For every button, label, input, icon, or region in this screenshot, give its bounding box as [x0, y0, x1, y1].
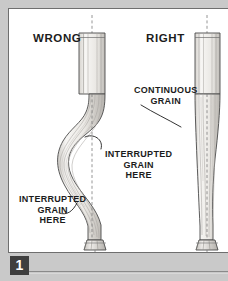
interrupted-center-leader	[85, 136, 102, 149]
continuous-grain-leader	[141, 105, 181, 127]
callout-line: CONTINUOUS	[134, 85, 198, 96]
figure-container: WRONG RIGHT CONTINUOUS GRAIN INTERRUPTED…	[0, 0, 228, 281]
label-right: RIGHT	[146, 32, 185, 44]
right-leg-foot	[196, 240, 218, 250]
panel-clip: WRONG RIGHT CONTINUOUS GRAIN INTERRUPTED…	[0, 0, 228, 281]
right-leg-group	[195, 15, 220, 253]
callout-continuous-grain: CONTINUOUS GRAIN	[134, 85, 198, 106]
right-leg-body	[195, 94, 220, 240]
callout-interrupted-grain-left: INTERRUPTED GRAIN HERE	[19, 194, 86, 226]
figure-number-badge: 1	[10, 256, 29, 275]
illustration-panel: WRONG RIGHT CONTINUOUS GRAIN INTERRUPTED…	[8, 8, 228, 253]
callout-line: HERE	[19, 215, 86, 226]
wrong-leg-foot	[84, 240, 106, 250]
caption-rule	[29, 271, 228, 272]
callout-line: GRAIN	[134, 96, 198, 107]
callout-interrupted-grain-center: INTERRUPTED GRAIN HERE	[105, 149, 172, 181]
callout-line: GRAIN	[19, 205, 86, 216]
callout-line: GRAIN	[105, 160, 172, 171]
label-wrong: WRONG	[33, 32, 81, 44]
callout-line: INTERRUPTED	[19, 194, 86, 205]
callout-line: HERE	[105, 170, 172, 181]
callout-line: INTERRUPTED	[105, 149, 172, 160]
caption-text	[33, 274, 228, 281]
